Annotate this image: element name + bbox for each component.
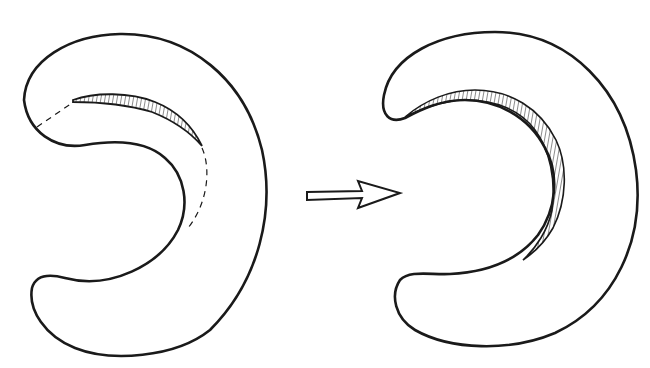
transition-arrow-icon [307, 181, 400, 208]
right-hatched-band [405, 90, 564, 260]
diagram-svg [0, 0, 650, 368]
left-c-shape [24, 34, 266, 356]
left-dashed-line-right [188, 148, 207, 228]
left-outline [24, 34, 266, 356]
left-dashed-line-upper [37, 103, 72, 127]
diagram-canvas: Two C-shaped kidney-like outlines; the l… [0, 0, 650, 368]
right-outline [383, 32, 637, 346]
left-hatched-region [73, 94, 202, 146]
right-c-shape [383, 32, 637, 346]
